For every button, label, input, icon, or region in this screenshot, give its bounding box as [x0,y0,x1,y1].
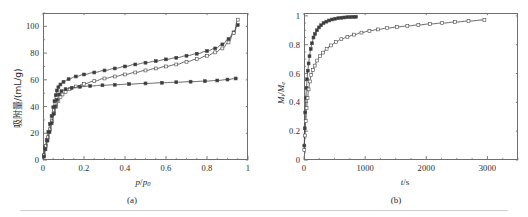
x-tick-label-a: 0 [29,164,57,173]
series-sample-2-adsorption [42,77,237,158]
y-axis-title-b-sep: / [276,92,286,95]
x-tick-label-b: 2000 [412,164,440,173]
panel-b-caption: (b) [264,196,528,205]
panel-b-kinetics: Mt/Me t/s (b) 010002000300000.20.40.60.8… [264,0,528,217]
x-tick-label-a: 1 [234,164,262,173]
y-tick-label-a: 20 [7,129,39,138]
y-tick-label-b: 0 [268,156,300,165]
x-tick-label-a: 0.6 [152,164,180,173]
figure-container: 吸附量/(mL/g) p/p0 (a) 00.20.40.60.81020406… [0,0,528,217]
y-tick-label-a: 60 [7,76,39,85]
series-sample-1-adsorption [42,24,239,157]
x-tick-label-a: 0.2 [70,164,98,173]
x-tick-label-a: 0.8 [193,164,221,173]
x-tick-label-b: 3000 [473,164,501,173]
bottom-divider-rule [20,210,508,211]
x-tick-label-b: 0 [290,164,318,173]
x-axis-title-b-unit: /s [403,177,409,187]
x-axis-title-b: t/s [264,178,528,187]
y-tick-label-a: 80 [7,49,39,58]
y-tick-label-b: 0.8 [268,41,300,50]
y-tick-label-b: 1 [268,12,300,21]
y-tick-label-a: 40 [7,103,39,112]
panel-a-caption: (a) [0,196,264,205]
y-tick-label-b: 0.2 [268,127,300,136]
x-tick-label-b: 1000 [351,164,379,173]
y-tick-label-b: 0.4 [268,98,300,107]
series-slow-kinetics-curve [303,18,486,151]
x-tick-label-a: 0.4 [111,164,139,173]
y-tick-label-a: 0 [7,156,39,165]
y-axis-title-b-den-sub: e [279,82,286,85]
y-tick-label-b: 0.6 [268,70,300,79]
panel-a-adsorption-isotherm: 吸附量/(mL/g) p/p0 (a) 00.20.40.60.81020406… [0,0,264,217]
y-tick-label-a: 100 [7,22,39,31]
x-axis-title-a: p/p0 [0,178,264,188]
y-axis-title-b-den: M [276,85,286,93]
x-axis-title-a-den-sub: 0 [147,180,150,187]
